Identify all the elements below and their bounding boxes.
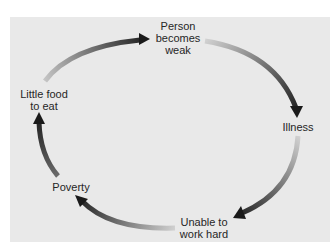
arrow-food-to-weak — [45, 33, 150, 81]
node-person-becomes-weak: Person becomes weak — [152, 20, 204, 56]
arrow-poverty-to-food — [33, 112, 58, 176]
node-little-food-to-eat: Little food to eat — [16, 88, 72, 112]
node-illness: Illness — [280, 121, 316, 133]
node-unable-to-work-hard: Unable to work hard — [178, 216, 230, 240]
arrow-unable-to-poverty — [75, 195, 175, 228]
node-poverty: Poverty — [50, 181, 92, 193]
arrow-weak-to-illness — [205, 41, 303, 118]
arrow-illness-to-unable — [233, 136, 298, 219]
